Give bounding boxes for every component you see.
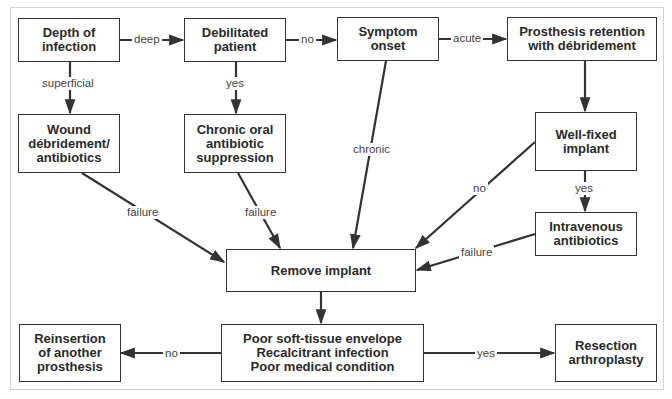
label-failure-wound: failure — [125, 206, 160, 219]
node-depth-of-infection: Depth of infection — [18, 18, 120, 62]
label-deep: deep — [132, 33, 162, 46]
label-yes-conditions: yes — [475, 347, 497, 360]
node-chronic-oral-suppression: Chronic oral antibiotic suppression — [184, 114, 286, 173]
label-failure-oral: failure — [243, 206, 278, 219]
label-acute: acute — [451, 32, 483, 45]
label-no-wellfixed: no — [471, 182, 488, 195]
label-yes-wellfixed: yes — [573, 182, 595, 195]
node-reinsertion: Reinsertion of another prosthesis — [19, 324, 121, 382]
node-well-fixed-implant: Well-fixed implant — [535, 112, 637, 171]
node-conditions: Poor soft-tissue envelope Recalcitrant i… — [221, 324, 424, 382]
node-debilitated-patient: Debilitated patient — [184, 18, 286, 62]
node-remove-implant: Remove implant — [226, 249, 416, 292]
label-yes-debilitated: yes — [224, 77, 246, 90]
edge-no-wellfixed — [416, 142, 535, 248]
label-no-debilitated: no — [299, 33, 316, 46]
node-symptom-onset: Symptom onset — [337, 17, 439, 61]
label-superficial: superficial — [40, 77, 96, 90]
node-intravenous-antibiotics: Intravenous antibiotics — [535, 212, 637, 256]
node-prosthesis-retention: Prosthesis retention with débridement — [507, 17, 657, 61]
node-resection-arthroplasty: Resection arthroplasty — [555, 324, 657, 382]
label-chronic: chronic — [351, 143, 392, 156]
label-no-conditions: no — [163, 347, 180, 360]
label-failure-iv: failure — [459, 246, 494, 259]
node-wound-debridement: Wound débridement/ antibiotics — [18, 114, 120, 173]
